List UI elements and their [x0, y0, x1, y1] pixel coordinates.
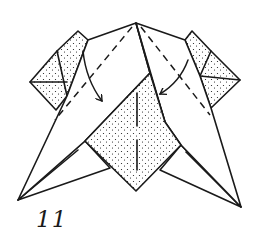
step-number: 11 — [36, 206, 67, 232]
